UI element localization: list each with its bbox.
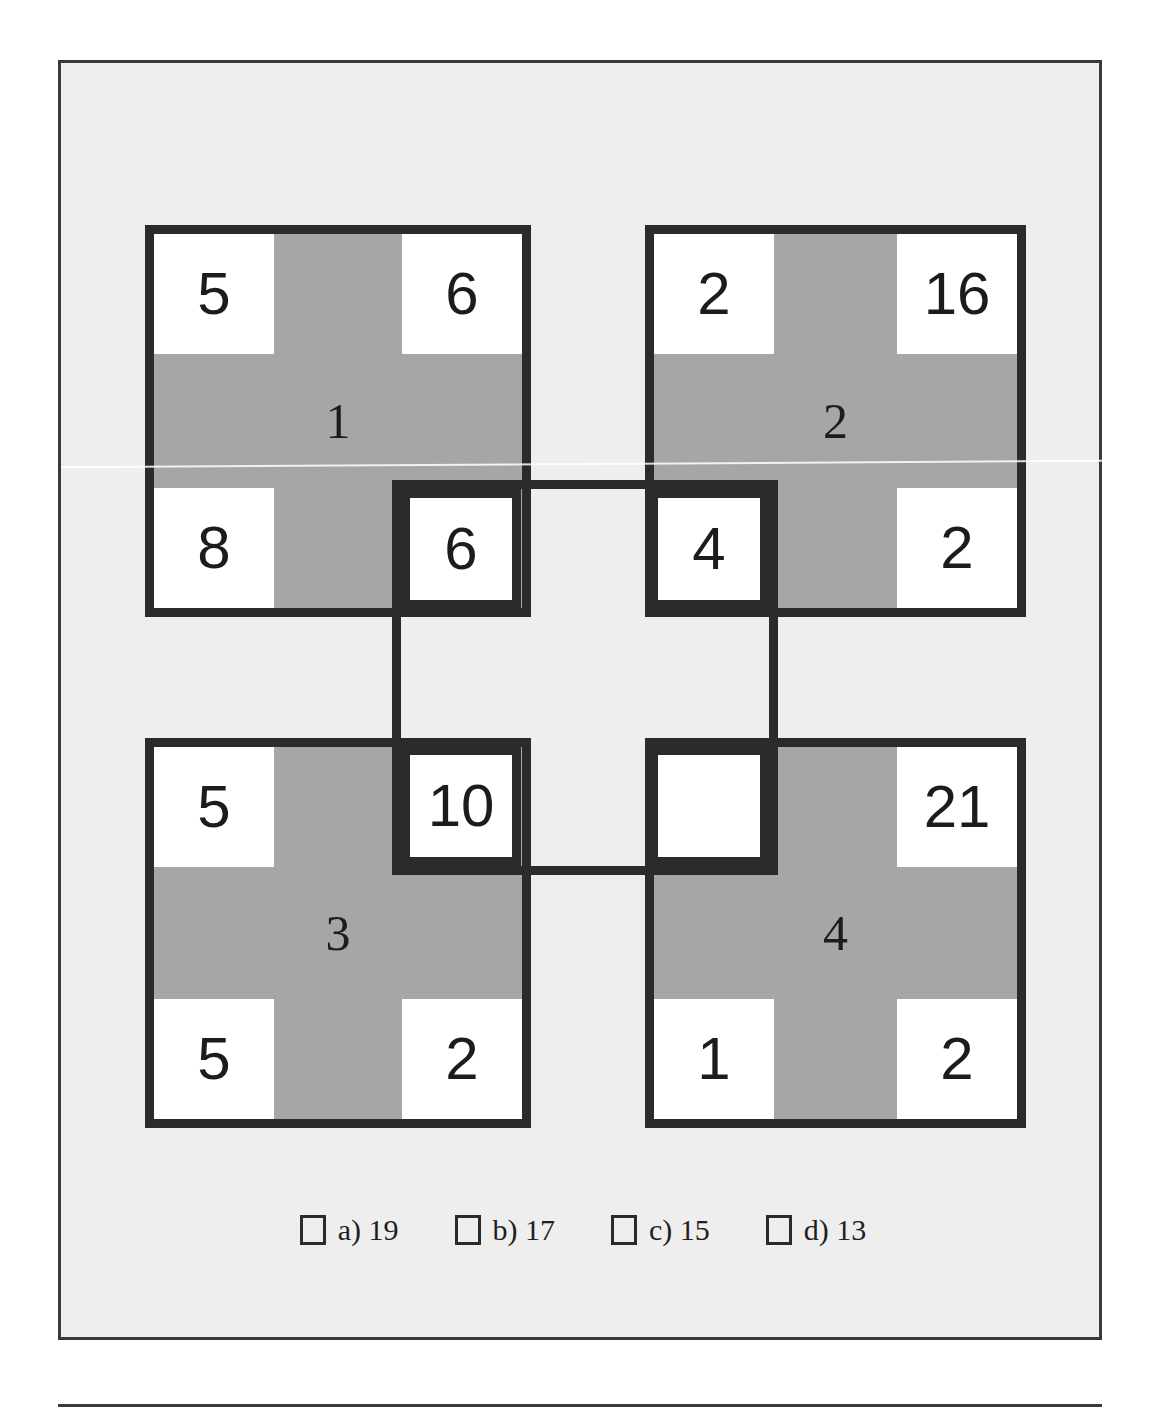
square-4-cell-top-right[interactable]: 21 [897, 747, 1017, 867]
square-4-cell-bottom-left[interactable]: 1 [654, 999, 774, 1119]
checkbox-icon-b[interactable] [455, 1215, 481, 1245]
square-1-center-label: 1 [154, 392, 522, 450]
center-square-cell-bottom-right-answer[interactable] [649, 746, 769, 866]
answer-option-c-label: c) 15 [649, 1213, 710, 1247]
square-4-cell-bottom-right[interactable]: 2 [897, 999, 1017, 1119]
square-3-cell-bottom-left[interactable]: 5 [154, 999, 274, 1119]
center-square-cell-top-right[interactable]: 4 [649, 489, 769, 609]
center-square-cell-top-left[interactable]: 6 [401, 489, 521, 609]
answer-option-c[interactable]: c) 15 [611, 1213, 710, 1247]
puzzle-diagram: 5 6 8 1 2 16 2 2 5 5 2 3 21 1 2 4 6 [61, 63, 1105, 1343]
square-2-cell-top-right[interactable]: 16 [897, 234, 1017, 354]
square-2-cell-bottom-right[interactable]: 2 [897, 488, 1017, 608]
puzzle-panel: 5 6 8 1 2 16 2 2 5 5 2 3 21 1 2 4 6 [58, 60, 1102, 1340]
center-square-cell-bottom-left[interactable]: 10 [401, 746, 521, 866]
puzzle-square-center: 6 4 10 [392, 480, 778, 875]
square-1-cell-bottom-left[interactable]: 8 [154, 488, 274, 608]
checkbox-icon-a[interactable] [300, 1215, 326, 1245]
square-1-cell-top-right[interactable]: 6 [402, 234, 522, 354]
answer-options-row: a) 19 b) 17 c) 15 d) 13 [61, 1213, 1105, 1247]
answer-option-b[interactable]: b) 17 [455, 1213, 556, 1247]
square-3-cell-bottom-right[interactable]: 2 [402, 999, 522, 1119]
next-page-panel-edge [58, 1404, 1102, 1411]
square-3-center-label: 3 [154, 904, 522, 962]
square-4-center-label: 4 [654, 904, 1017, 962]
square-2-center-label: 2 [654, 392, 1017, 450]
answer-option-a[interactable]: a) 19 [300, 1213, 399, 1247]
answer-option-b-label: b) 17 [493, 1213, 556, 1247]
square-2-cell-top-left[interactable]: 2 [654, 234, 774, 354]
square-3-cell-top-left[interactable]: 5 [154, 747, 274, 867]
answer-option-a-label: a) 19 [338, 1213, 399, 1247]
square-1-cell-top-left[interactable]: 5 [154, 234, 274, 354]
checkbox-icon-c[interactable] [611, 1215, 637, 1245]
answer-option-d-label: d) 13 [804, 1213, 867, 1247]
checkbox-icon-d[interactable] [766, 1215, 792, 1245]
answer-option-d[interactable]: d) 13 [766, 1213, 867, 1247]
